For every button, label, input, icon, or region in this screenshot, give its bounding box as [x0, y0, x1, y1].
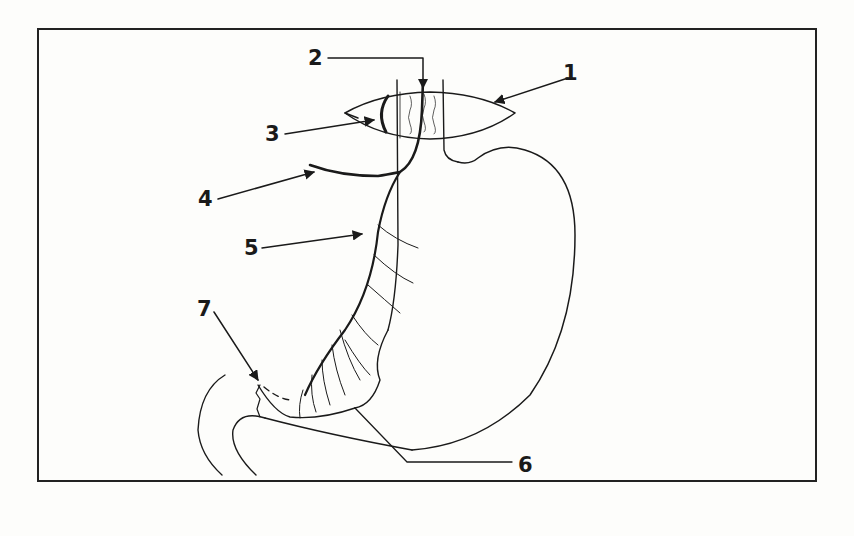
- callout-label-2: 2: [308, 48, 323, 69]
- stomach-diagram: [0, 0, 854, 536]
- nerve-branches: [299, 225, 418, 418]
- stomach-outline: [412, 147, 575, 450]
- callout-label-1: 1: [563, 63, 578, 84]
- callout-arrows: [214, 58, 568, 380]
- vagus-nerve: [305, 80, 423, 395]
- lesser-curvature: [198, 330, 412, 475]
- pyloric-branch: [355, 408, 512, 462]
- callout-label-6: 6: [518, 455, 533, 476]
- callout-label-7: 7: [197, 299, 212, 320]
- callout-label-5: 5: [244, 238, 259, 259]
- sphincter-band: [381, 96, 388, 132]
- callout-label-3: 3: [265, 124, 280, 145]
- esophagus: [388, 80, 458, 330]
- diaphragm-shape: [345, 92, 515, 139]
- callout-label-4: 4: [198, 189, 213, 210]
